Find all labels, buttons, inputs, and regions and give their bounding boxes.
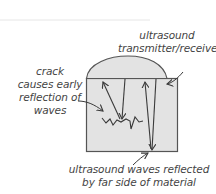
- crack-label-line-4: waves: [4, 104, 96, 117]
- far-side-label: ultrasound waves reflected by far side o…: [62, 163, 216, 189]
- crack-label-line-3: reflection of: [4, 91, 96, 104]
- transducer-label-line-1: ultrasound: [118, 29, 216, 42]
- transducer-label: ultrasound transmitter/receiver: [118, 29, 216, 55]
- ultrasound-diagram: ultrasound transmitter/receiver crack ca…: [0, 0, 216, 194]
- transducer-dome: [87, 56, 168, 79]
- crack-label: crack causes early reflection of waves: [4, 65, 96, 117]
- crack-label-line-1: crack: [4, 65, 96, 78]
- crack-label-line-2: causes early: [4, 78, 96, 91]
- far-side-label-line-1: ultrasound waves reflected: [62, 163, 216, 176]
- material-block: [87, 79, 178, 152]
- transducer-label-line-2: transmitter/receiver: [118, 42, 216, 55]
- far-side-label-line-2: by far side of material: [62, 176, 216, 189]
